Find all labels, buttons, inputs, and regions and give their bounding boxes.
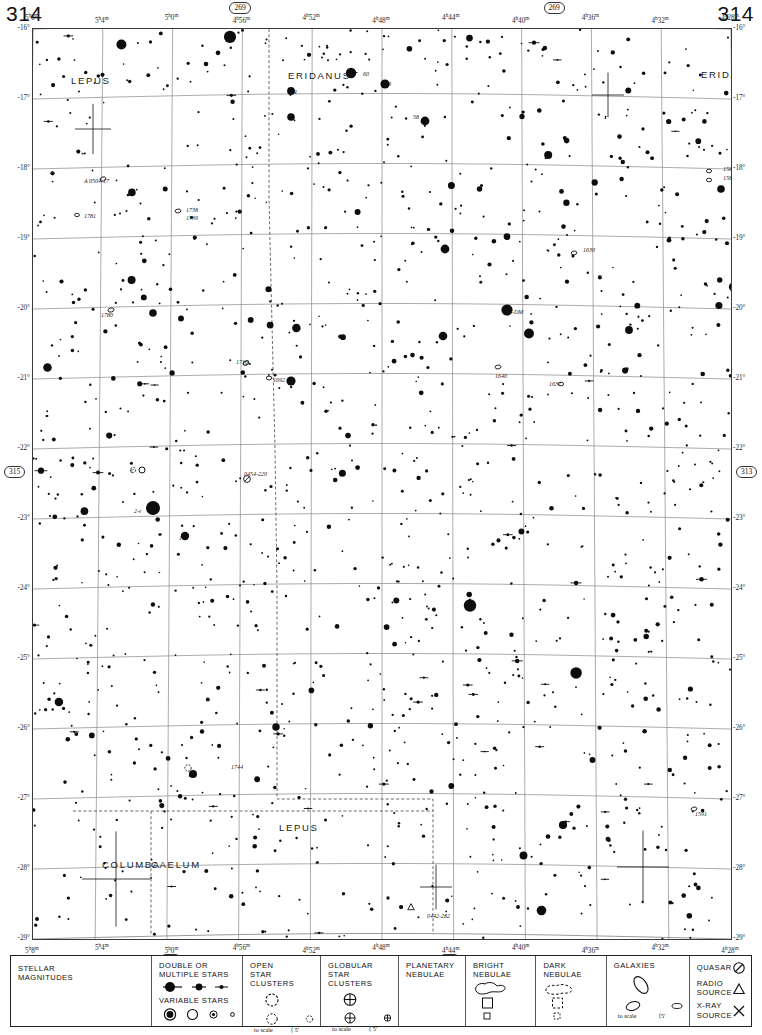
ra-tick-top-0: 5h8m [25, 12, 39, 22]
object-label: 0442-282 [427, 913, 450, 920]
constellation-label: CAELUM [151, 859, 201, 870]
object-label: 1640 [495, 373, 507, 380]
legend-title-line2: NEBULAE [473, 970, 530, 979]
object-label: 59 [385, 81, 391, 88]
legend-radio-line1: RADIO [697, 979, 732, 988]
dec-tick-left-3: -19° [2, 234, 30, 242]
dec-tick-left-1: -17° [2, 94, 30, 102]
object-label: 1583 [723, 175, 732, 182]
galaxy-small-icon [670, 1001, 684, 1011]
legend-stellar-magnitudes: STELLAR MAGNITUDES [11, 956, 152, 1026]
object-label: 1744 [231, 764, 243, 771]
dec-tick-right-11: -27° [733, 794, 745, 802]
dec-tick-left-0: -16° [2, 24, 30, 32]
galaxy-small-label: ⟨5' [659, 1012, 666, 1019]
dec-tick-left-8: -24° [2, 584, 30, 592]
quasar-icon [732, 961, 746, 975]
galaxy-medium-icon [624, 1000, 642, 1012]
legend-bright-nebulae: BRIGHT NEBULAE [466, 956, 536, 1026]
ra-tick-top-7: 4h40m [512, 15, 529, 25]
object-label: 1692 [273, 377, 285, 384]
ra-tick-top-8: 4h36m [582, 12, 599, 22]
ra-tick-bottom-7: 4h40m [512, 942, 529, 952]
ra-tick-top-1: 5h4m [95, 15, 109, 25]
radio-source-icon [732, 982, 746, 995]
legend-galaxies: GALAXIES to scale ⟨5' [607, 956, 690, 1026]
ra-tick-bottom-9: 4h32m [651, 942, 668, 952]
legend: STELLAR MAGNITUDES DOUBLE OR MULTIPLE ST… [10, 955, 752, 1027]
legend-quasar-label: QUASAR [697, 963, 732, 972]
legend-globular-clusters: GLOBULAR STAR CLUSTERS to scale ⟨ 5' [321, 956, 399, 1026]
star-chart[interactable]: LEPUSERIDANUSERIDANUSLEPUSCOLUMBACAELUME… [32, 28, 732, 940]
adjacent-chart-top-right[interactable]: 269 [544, 2, 565, 14]
object-label: 1 [179, 535, 182, 542]
legend-title-line1: GLOBULAR [328, 961, 393, 970]
legend-title-line1: OPEN [250, 961, 315, 970]
dark-nebula-medium-icon [551, 996, 565, 1010]
dec-tick-left-6: -22° [2, 444, 30, 452]
dec-tick-right-12: -28° [733, 864, 745, 872]
dec-tick-right-10: -26° [733, 724, 745, 732]
legend-galaxies-title: GALAXIES [614, 961, 684, 970]
globular-scale-label: to scale [332, 1025, 351, 1032]
sky-map-svg [33, 29, 731, 939]
adjacent-chart-left[interactable]: 315 [4, 466, 25, 478]
legend-title-line2: STAR CLUSTERS [250, 970, 315, 988]
dec-tick-right-6: -22° [733, 444, 745, 452]
ra-tick-bottom-3: 4h56m [233, 942, 250, 952]
dec-tick-left-13: -29° [2, 934, 30, 942]
object-label: 1739 [186, 215, 198, 222]
globular-cluster-small-icon [382, 1011, 393, 1025]
dec-tick-right-4: -20° [733, 304, 745, 312]
ra-tick-top-4: 4h52m [302, 12, 319, 22]
bright-nebula-medium-icon [481, 996, 495, 1010]
ra-tick-top-5: 4h48m [372, 15, 389, 25]
legend-xray-line1: X-RAY [697, 1001, 732, 1010]
dec-tick-right-1: -17° [733, 94, 745, 102]
object-label: 60 [363, 71, 369, 78]
variable-star-large-icon [163, 1008, 177, 1021]
legend-planetary-nebulae: PLANETARY NEBULAE [399, 956, 466, 1026]
legend-radio-line2: SOURCE [697, 988, 732, 997]
object-label: 0454-220 [244, 471, 267, 478]
legend-double-stars: DOUBLE OR MULTIPLE STARS VARIABLE STARS [152, 956, 243, 1026]
ra-tick-bottom-1: 5h4m [95, 942, 109, 952]
object-label: 1780 [101, 312, 113, 319]
xray-source-icon [732, 1004, 746, 1018]
dec-tick-right-7: -23° [733, 514, 745, 522]
variable-star-symbols [163, 1008, 237, 1021]
ra-tick-bottom-5: 4h48m [372, 942, 389, 952]
dec-tick-right-3: -19° [733, 234, 745, 242]
ra-tick-top-6: 4h44m [442, 12, 459, 22]
object-label: 1630 [583, 247, 595, 254]
legend-xray-line2: SOURCE [697, 1011, 732, 1020]
adjacent-chart-top-left[interactable]: 269 [229, 2, 250, 14]
object-label: 1716 [236, 359, 248, 366]
object-label: 1591 [695, 811, 707, 818]
adjacent-chart-right[interactable]: 313 [736, 466, 757, 478]
constellation-label: LEPUS [279, 822, 319, 833]
open-cluster-small-label: ⟨ 5' [291, 1026, 299, 1033]
dec-tick-left-5: -21° [2, 374, 30, 382]
object-label: R [293, 89, 297, 96]
legend-variable-title: VARIABLE STARS [159, 996, 237, 1005]
legend-dark-nebulae: DARK NEBULAE [536, 956, 606, 1026]
dec-tick-left-2: -18° [2, 164, 30, 172]
object-label: 58 [413, 114, 419, 121]
dec-tick-left-12: -28° [2, 864, 30, 872]
galaxy-scale-label: to scale [618, 1012, 637, 1019]
bright-nebula-shape-icon [473, 980, 509, 996]
legend-title-line1: PLANETARY [406, 961, 460, 970]
dec-tick-right-2: -18° [733, 164, 745, 172]
object-label: T [130, 468, 133, 475]
open-cluster-large-icon [264, 993, 280, 1008]
double-star-symbols [163, 981, 237, 993]
legend-title-line1: STELLAR [18, 964, 73, 973]
object-label: 54-DM [506, 309, 523, 316]
object-label: 1738 [186, 207, 198, 214]
ra-tick-top-10: 4h28m [721, 12, 738, 22]
constellation-label: LEPUS [71, 75, 111, 86]
legend-title-line1: BRIGHT [473, 961, 530, 970]
dec-tick-right-5: -21° [733, 374, 745, 382]
ra-tick-top-9: 4h32m [651, 15, 668, 25]
